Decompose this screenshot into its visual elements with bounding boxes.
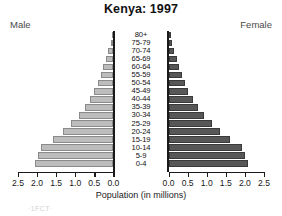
- age-group-label-0-4: 0-4: [115, 160, 167, 168]
- right-axis-tick-label-1.0: 1.0: [201, 178, 213, 188]
- male-series-label: Male: [10, 19, 31, 30]
- female-bar-65-69: [169, 56, 177, 63]
- chart-title: Kenya: 1997: [0, 2, 282, 16]
- right-axis-tick-label-0.0: 0.0: [163, 178, 175, 188]
- right-axis-tick-label-2.0: 2.0: [239, 178, 251, 188]
- female-bar-10-14: [169, 144, 243, 151]
- male-bar-40-44: [90, 96, 113, 103]
- male-bar-15-19: [53, 136, 113, 143]
- left-axis-tick-2.0: [37, 172, 38, 177]
- male-bar-25-29: [71, 120, 113, 127]
- left-axis-tick-0.0: [113, 172, 114, 177]
- female-bar-35-39: [169, 104, 198, 111]
- right-axis-line: [169, 172, 264, 173]
- male-bar-0-4: [35, 160, 113, 167]
- female-bar-80+: [169, 32, 171, 39]
- population-pyramid-chart: Kenya: 1997 Male Female 80+75-7970-7465-…: [0, 0, 282, 216]
- right-axis-tick-label-1.5: 1.5: [220, 178, 232, 188]
- male-bar-30-34: [79, 112, 113, 119]
- left-axis-tick-0.5: [94, 172, 95, 177]
- right-center-axis-rule: [167, 31, 169, 172]
- female-bar-25-29: [169, 120, 212, 127]
- right-axis-tick-2.0: [245, 172, 246, 177]
- male-bar-45-49: [94, 88, 113, 95]
- female-bar-5-9: [169, 152, 245, 159]
- female-bar-40-44: [169, 96, 193, 103]
- right-axis-tick-label-0.5: 0.5: [182, 178, 194, 188]
- right-axis-tick-1.5: [226, 172, 227, 177]
- male-bar-20-24: [63, 128, 113, 135]
- male-bar-55-59: [101, 72, 114, 79]
- male-bar-10-14: [41, 144, 114, 151]
- female-bar-70-74: [169, 48, 175, 55]
- left-axis-tick-2.5: [18, 172, 19, 177]
- right-axis-tick-2.5: [264, 172, 265, 177]
- female-bar-30-34: [169, 112, 204, 119]
- female-bar-45-49: [169, 88, 189, 95]
- male-bar-50-54: [98, 80, 114, 87]
- pyramid-row: 0-4: [0, 160, 282, 168]
- female-bar-0-4: [169, 160, 248, 167]
- left-axis-tick-1.0: [75, 172, 76, 177]
- right-axis-tick-0.5: [188, 172, 189, 177]
- x-axis-label: Population (in millions): [0, 190, 282, 200]
- male-bar-60-64: [103, 64, 113, 71]
- right-x-axis: [169, 172, 264, 177]
- pyramid-plot-area: 80+75-7970-7465-6960-6455-5950-5445-4940…: [0, 31, 282, 172]
- female-bar-55-59: [169, 72, 182, 79]
- right-axis-tick-1.0: [207, 172, 208, 177]
- cropped-footer-text: ·1FCT·: [28, 205, 53, 215]
- male-bar-65-69: [106, 56, 113, 63]
- right-axis-tick-label-2.5: 2.5: [258, 178, 270, 188]
- female-bar-20-24: [169, 128, 221, 135]
- left-x-axis: [18, 172, 113, 177]
- right-axis-tick-0.0: [169, 172, 170, 177]
- male-bar-35-39: [85, 104, 113, 111]
- left-axis-line: [18, 172, 113, 173]
- female-bar-15-19: [169, 136, 231, 143]
- right-tick-labels: 0.00.51.01.52.02.5: [0, 178, 282, 190]
- male-bar-5-9: [38, 152, 114, 159]
- left-axis-tick-1.5: [56, 172, 57, 177]
- female-bar-50-54: [169, 80, 185, 87]
- female-bar-75-79: [169, 40, 172, 47]
- female-series-label: Female: [240, 19, 272, 30]
- female-bar-60-64: [169, 64, 180, 71]
